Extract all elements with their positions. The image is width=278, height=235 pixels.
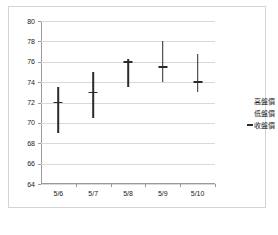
y-axis-tick-label: 66: [27, 160, 35, 167]
gridline: [41, 41, 215, 42]
hlc-range-bar: [58, 87, 60, 133]
y-axis-tick-label: 70: [27, 119, 35, 126]
close-price-tick: [124, 61, 133, 63]
close-price-tick: [158, 66, 167, 68]
hlc-range-bar: [197, 54, 199, 93]
x-axis-tick-label: 5/10: [191, 190, 205, 197]
y-tick-mark: [38, 143, 41, 144]
y-axis-tick-label: 68: [27, 140, 35, 147]
y-tick-mark: [38, 62, 41, 63]
gridline: [41, 21, 215, 22]
y-axis-tick-label: 78: [27, 38, 35, 45]
legend-item-label: 低盤價: [254, 108, 275, 118]
y-tick-mark: [38, 103, 41, 104]
hlc-range-bar: [162, 41, 164, 82]
legend-item-label: 收盤價: [254, 120, 275, 130]
gridline: [41, 123, 215, 124]
x-axis-tick-label: 5/8: [123, 190, 133, 197]
y-tick-mark: [38, 82, 41, 83]
legend-item: 高盤價: [223, 95, 275, 107]
x-tick-mark: [145, 184, 146, 187]
x-axis-tick-label: 5/6: [54, 190, 64, 197]
legend-line-marker-icon: [247, 124, 253, 126]
close-price-tick: [193, 81, 202, 83]
gridline: [41, 103, 215, 104]
y-tick-mark: [38, 164, 41, 165]
x-tick-mark: [76, 184, 77, 187]
y-axis-tick-label: 80: [27, 18, 35, 25]
hlc-range-bar: [92, 72, 94, 118]
gridline: [41, 143, 215, 144]
legend-item-label: 高盤價: [254, 96, 275, 106]
y-tick-mark: [38, 184, 41, 185]
close-price-tick: [54, 102, 63, 104]
y-tick-mark: [38, 123, 41, 124]
y-axis-tick-label: 74: [27, 79, 35, 86]
y-axis-tick-label: 76: [27, 58, 35, 65]
hlc-range-bar: [127, 59, 129, 88]
x-axis-tick-label: 5/9: [158, 190, 168, 197]
x-tick-mark: [215, 184, 216, 187]
legend-item: 低盤價: [223, 107, 275, 119]
gridline: [41, 184, 215, 185]
gridline: [41, 164, 215, 165]
close-price-tick: [89, 92, 98, 94]
y-tick-mark: [38, 41, 41, 42]
y-axis-tick-label: 72: [27, 99, 35, 106]
legend-item: 收盤價: [223, 119, 275, 131]
x-tick-mark: [180, 184, 181, 187]
chart-legend: 高盤價低盤價收盤價: [223, 95, 275, 131]
legend-marker-spacer-icon: [247, 112, 253, 114]
x-axis-tick-label: 5/7: [88, 190, 98, 197]
plot-area: [41, 21, 215, 184]
y-tick-mark: [38, 21, 41, 22]
legend-marker-spacer-icon: [247, 100, 253, 102]
x-tick-mark: [111, 184, 112, 187]
chart-frame: 646668707274767880 5/65/75/85/95/10 高盤價低…: [8, 6, 266, 208]
y-axis-tick-label: 64: [27, 181, 35, 188]
